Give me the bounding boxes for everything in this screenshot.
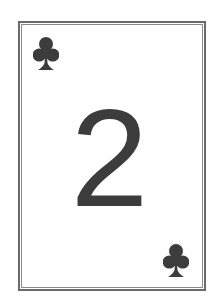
card-rank: 2 xyxy=(0,88,219,228)
club-icon xyxy=(33,36,59,71)
club-icon xyxy=(163,243,189,278)
